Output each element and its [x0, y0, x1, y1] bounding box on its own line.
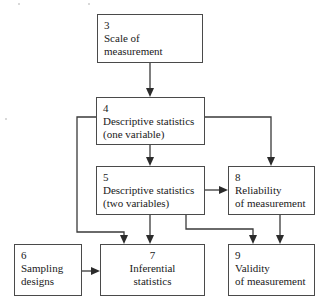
node-label-line-2: designs [21, 275, 81, 288]
node-number: 3 [104, 19, 202, 32]
node-descriptive-statistics-one-variable[interactable]: 4 Descriptive statistics (one variable) [96, 97, 205, 145]
node-label-line-1: Descriptive statistics [103, 184, 204, 197]
flowchart-diagram: 3 Scale of measurement 4 Descriptive sta… [0, 0, 328, 308]
edge-descriptive-one-to-descriptive-two [146, 145, 154, 166]
node-label-line-2: statistics [101, 275, 204, 288]
node-sampling-designs[interactable]: 6 Sampling designs [14, 244, 82, 296]
edge-descriptive-two-to-validity [186, 215, 257, 244]
node-label-line-1: Reliability [235, 184, 314, 197]
node-label-line-2: of measurement [235, 275, 314, 288]
node-label-line-2: of measurement [235, 197, 314, 210]
node-number: 5 [103, 171, 204, 184]
node-label-line-1: Validity [235, 262, 314, 275]
node-label-line-2: measurement [104, 45, 202, 58]
node-inferential-statistics[interactable]: 7 Inferential statistics [100, 244, 205, 296]
node-number: 7 [101, 249, 204, 262]
node-label-line-2: (one variable) [103, 128, 204, 141]
node-number: 8 [235, 171, 314, 184]
edge-descriptive-two-to-reliability [205, 186, 228, 194]
edge-scale-to-descriptive-one [146, 63, 154, 97]
node-validity-of-measurement[interactable]: 9 Validity of measurement [228, 244, 315, 296]
node-label-line-1: Sampling [21, 262, 81, 275]
node-scale-of-measurement[interactable]: 3 Scale of measurement [97, 14, 203, 63]
node-label-line-1: Descriptive statistics [103, 115, 204, 128]
edge-descriptive-one-to-reliability [205, 117, 275, 166]
node-number: 4 [103, 102, 204, 115]
node-number: 6 [21, 249, 81, 262]
node-number: 9 [235, 249, 314, 262]
edge-reliability-to-validity [276, 215, 284, 244]
edge-sampling-to-inferential [82, 267, 100, 275]
node-reliability-of-measurement[interactable]: 8 Reliability of measurement [228, 166, 315, 215]
edge-descriptive-two-to-inferential [146, 215, 154, 244]
node-descriptive-statistics-two-variables[interactable]: 5 Descriptive statistics (two variables) [96, 166, 205, 215]
node-label-line-1: Inferential [101, 262, 204, 275]
node-label-line-1: Scale of [104, 32, 202, 45]
node-label-line-2: (two variables) [103, 197, 204, 210]
